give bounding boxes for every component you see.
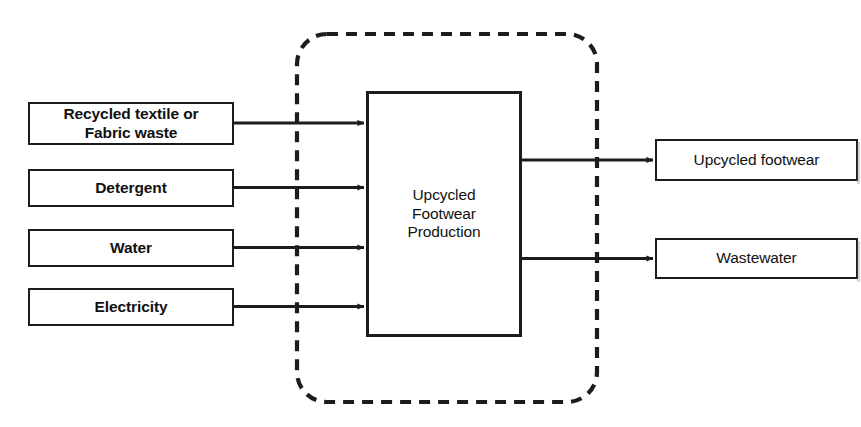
process-box-upcycled-footwear-production[interactable]: Upcycled Footwear Production — [366, 91, 522, 337]
input-box-water[interactable]: Water — [28, 229, 234, 267]
input-box-detergent[interactable]: Detergent — [28, 169, 234, 207]
input-box-recycled-textile[interactable]: Recycled textile or Fabric waste — [28, 102, 234, 145]
process-flow-diagram: Recycled textile or Fabric waste Deterge… — [0, 0, 861, 427]
input-label-recycled-textile: Recycled textile or Fabric waste — [57, 105, 204, 143]
process-label-upcycled-footwear-production: Upcycled Footwear Production — [401, 186, 486, 243]
scan-artifact-right-upcycled — [857, 142, 860, 184]
output-label-upcycled-footwear: Upcycled footwear — [688, 151, 826, 170]
input-box-electricity[interactable]: Electricity — [28, 288, 234, 326]
output-box-wastewater[interactable]: Wastewater — [655, 238, 858, 279]
input-label-detergent: Detergent — [89, 179, 172, 198]
output-label-wastewater: Wastewater — [710, 249, 802, 268]
input-label-water: Water — [104, 239, 158, 258]
input-label-electricity: Electricity — [89, 298, 174, 317]
scan-artifact-right-wastewater — [857, 241, 860, 282]
output-box-upcycled-footwear[interactable]: Upcycled footwear — [655, 139, 858, 181]
